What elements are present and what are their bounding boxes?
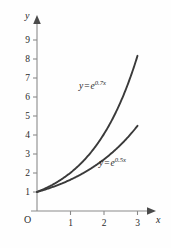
origin-label: O [24, 215, 31, 225]
curve-label-exponent-0-7: 0.7x [95, 79, 106, 86]
y-tick-label-5: 5 [18, 112, 30, 122]
y-axis-label: y [25, 11, 29, 21]
y-tick-label-2: 2 [18, 169, 30, 179]
curve-label-rel-0-5: = [103, 158, 110, 168]
x-tick-label-1: 1 [65, 219, 77, 229]
y-axis-ticks [33, 40, 37, 192]
y-tick-label-6: 6 [18, 93, 30, 103]
y-tick-label-3: 3 [18, 150, 30, 160]
y-tick-label-4: 4 [18, 131, 30, 141]
curve-label-exp-0-7: y=e0.7x [79, 82, 106, 92]
curve-label-rel-0-7: = [83, 81, 90, 91]
x-axis-label: x [156, 215, 160, 225]
curve-label-exp-0-5: y=e0.5x [99, 159, 126, 169]
x-axis-arrowhead [147, 207, 156, 215]
y-tick-label-8: 8 [18, 55, 30, 65]
x-tick-label-3: 3 [132, 219, 144, 229]
y-axis-arrowhead [33, 15, 41, 24]
x-axis-ticks [71, 211, 138, 215]
y-tick-label-1: 1 [18, 188, 30, 198]
y-tick-label-9: 9 [18, 36, 30, 46]
exponential-growth-figure: 1 2 3 4 5 6 7 8 9 1 2 3 y x O y=e0.7x y=… [0, 0, 171, 248]
y-tick-label-7: 7 [18, 74, 30, 84]
curve-label-exponent-0-5: 0.5x [115, 156, 126, 163]
x-tick-label-2: 2 [98, 219, 110, 229]
